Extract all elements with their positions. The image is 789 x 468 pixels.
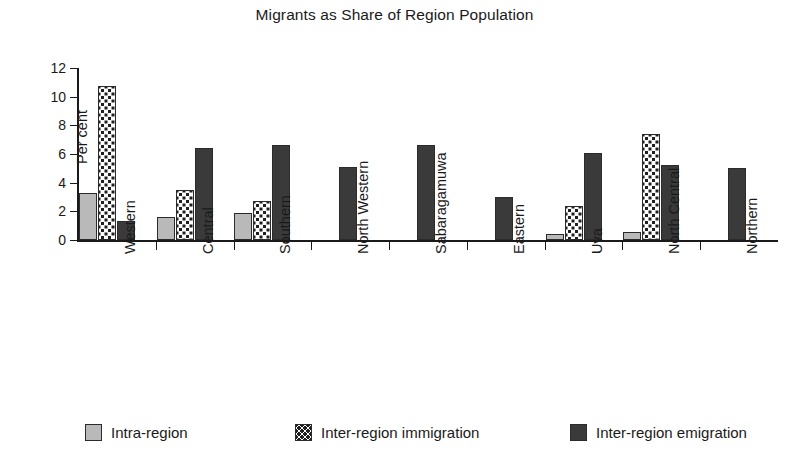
legend-item-immig[interactable]: Inter-region immigration [295, 424, 479, 441]
legend-item-emig[interactable]: Inter-region emigration [570, 424, 747, 441]
bar-intra [234, 213, 252, 240]
bar-group [622, 68, 700, 240]
legend-label: Inter-region emigration [596, 424, 747, 441]
bar-group [700, 68, 778, 240]
y-axis-tick [70, 183, 78, 184]
bar-immig [98, 86, 116, 240]
legend-label: Inter-region immigration [321, 424, 479, 441]
y-axis-tick-label: 0 [38, 233, 66, 247]
legend-swatch-intra-icon [85, 424, 102, 441]
bar-group [78, 68, 156, 240]
bar-immig [565, 206, 583, 240]
bar-intra [157, 217, 175, 240]
x-axis-tick [234, 241, 235, 250]
y-axis-tick [70, 240, 78, 241]
legend-swatch-immig-icon [295, 424, 312, 441]
y-axis-tick-label: 6 [38, 147, 66, 161]
bar-immig [176, 190, 194, 240]
legend-swatch-emig-icon [570, 424, 587, 441]
x-axis-tick [700, 241, 701, 250]
bar-immig [642, 134, 660, 240]
bar-intra [546, 234, 564, 240]
x-axis-label-uva: Uva [590, 228, 605, 254]
y-axis-tick-label: 8 [38, 118, 66, 132]
x-axis-tick [467, 241, 468, 250]
bar-group [311, 68, 389, 240]
y-axis-tick [70, 154, 78, 155]
x-axis-label-western: Western [123, 200, 138, 254]
x-axis-label-central: Central [201, 207, 216, 254]
legend-label: Intra-region [111, 424, 188, 441]
bar-group [389, 68, 467, 240]
x-axis-label-north-western: North Western [356, 161, 371, 254]
bar-intra [623, 232, 641, 240]
x-axis-tick [311, 241, 312, 250]
y-axis-tick-label: 10 [38, 90, 66, 104]
x-axis-tick [156, 241, 157, 250]
y-axis-tick [70, 125, 78, 126]
chart-legend: Intra-regionInter-region immigrationInte… [0, 424, 789, 454]
x-axis-tick [622, 241, 623, 250]
y-axis-tick-label: 4 [38, 176, 66, 190]
bar-immig [253, 201, 271, 240]
x-axis-tick [389, 241, 390, 250]
x-axis-tick [545, 241, 546, 250]
bar-group [467, 68, 545, 240]
x-axis-label-north-central: North Central [667, 168, 682, 254]
bar-emig [584, 153, 602, 240]
x-axis-label-southern: Southern [278, 195, 293, 254]
y-axis-tick [70, 68, 78, 69]
y-axis-tick-label: 2 [38, 204, 66, 218]
x-axis-label-sabaragamuwa: Sabaragamuwa [434, 152, 449, 254]
legend-item-intra[interactable]: Intra-region [85, 424, 188, 441]
bar-chart: Migrants as Share of Region Population P… [0, 0, 789, 468]
y-axis-tick-label: 12 [38, 61, 66, 75]
bar-intra [79, 193, 97, 240]
x-axis-label-northern: Northern [745, 198, 760, 254]
bar-group [545, 68, 623, 240]
y-axis-tick [70, 211, 78, 212]
x-axis-label-eastern: Eastern [512, 204, 527, 254]
bar-group [156, 68, 234, 240]
y-axis-tick [70, 97, 78, 98]
bar-group [234, 68, 312, 240]
chart-title: Migrants as Share of Region Population [0, 6, 789, 24]
